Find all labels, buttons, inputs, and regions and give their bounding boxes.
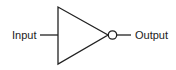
input-label: Input — [12, 29, 36, 41]
output-label: Output — [135, 29, 168, 41]
not-gate-diagram: Input Output — [0, 0, 176, 70]
inversion-bubble — [108, 31, 116, 39]
buffer-triangle — [58, 7, 108, 64]
